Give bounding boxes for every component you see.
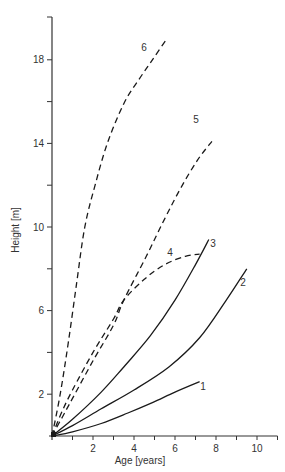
y-tick-label: 6 bbox=[38, 305, 44, 316]
y-axis-title: Height [m] bbox=[10, 207, 21, 253]
curves bbox=[51, 39, 247, 437]
y-tick-label: 2 bbox=[38, 389, 44, 400]
x-tick-label: 4 bbox=[131, 443, 137, 454]
curve-6 bbox=[52, 39, 167, 436]
curve-label-3: 3 bbox=[210, 238, 216, 249]
curve-label-5: 5 bbox=[193, 114, 199, 125]
axes: 26101418246810 bbox=[33, 17, 278, 454]
x-axis-title: Age [years] bbox=[115, 455, 166, 466]
curve-1 bbox=[52, 382, 200, 436]
curve-label-2: 2 bbox=[240, 277, 246, 288]
curve-3 bbox=[52, 240, 209, 437]
curve-labels: 123456 bbox=[141, 42, 246, 392]
x-tick-label: 2 bbox=[90, 443, 96, 454]
y-tick-label: 18 bbox=[33, 54, 45, 65]
curve-label-4: 4 bbox=[167, 247, 173, 258]
curve-4 bbox=[52, 254, 200, 436]
growth-chart: 26101418246810 123456 Age [years] Height… bbox=[0, 0, 285, 472]
x-tick-label: 8 bbox=[213, 443, 219, 454]
origin-marker bbox=[51, 432, 56, 437]
curve-label-6: 6 bbox=[141, 42, 147, 53]
x-tick-label: 6 bbox=[172, 443, 178, 454]
y-tick-label: 14 bbox=[33, 138, 45, 149]
x-tick-label: 10 bbox=[251, 443, 263, 454]
y-tick-label: 10 bbox=[33, 222, 45, 233]
curve-label-1: 1 bbox=[200, 381, 206, 392]
